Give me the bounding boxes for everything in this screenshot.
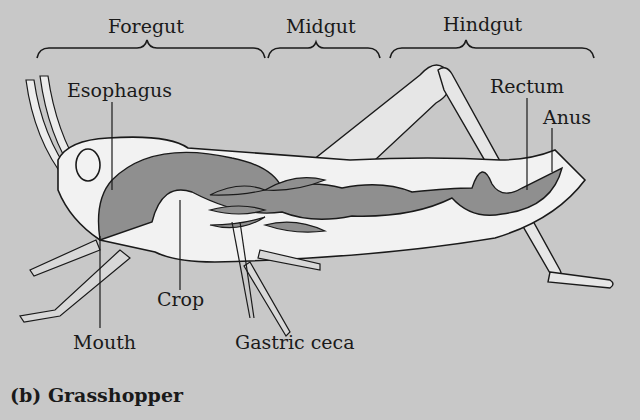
label-crop: Crop [157,290,204,309]
label-anus: Anus [543,108,591,127]
label-esophagus: Esophagus [67,81,172,100]
section-braces [37,40,594,58]
label-mouth: Mouth [73,333,136,352]
label-foregut: Foregut [108,17,184,36]
label-hindgut: Hindgut [443,15,522,34]
grasshopper-illustration [0,0,640,420]
label-rectum: Rectum [490,77,564,96]
figure-caption: (b) Grasshopper [10,384,183,406]
label-gastric-ceca: Gastric ceca [235,333,355,352]
label-midgut: Midgut [286,17,356,36]
